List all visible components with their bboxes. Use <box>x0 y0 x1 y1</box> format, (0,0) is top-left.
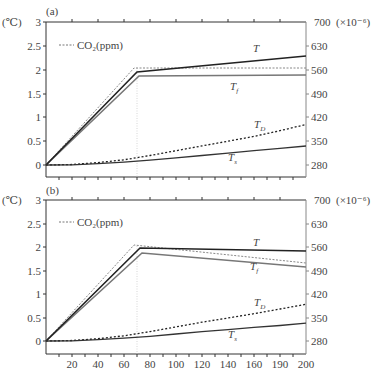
panel-b-right-tick-700: 700 <box>314 194 331 206</box>
svg-text:490: 490 <box>311 88 328 100</box>
svg-text:2.5: 2.5 <box>27 40 41 52</box>
svg-text:630: 630 <box>311 218 328 230</box>
svg-text:420: 420 <box>311 288 328 300</box>
panel-a-left-unit: (℃) <box>2 16 22 29</box>
panel-a-series-T <box>46 56 306 165</box>
svg-text:420: 420 <box>311 111 328 123</box>
panel-a-left-tick-labels: 3 2.5 2 1.5 1 0.5 0 <box>27 16 41 171</box>
panel-b-label-T: T <box>253 236 260 248</box>
panel-a-series-TD <box>46 125 306 166</box>
svg-text:40: 40 <box>93 358 105 370</box>
svg-text:0: 0 <box>36 335 42 347</box>
panel-b-left-tick-labels: 3 2.5 2 1.5 1 0.5 0 <box>27 194 41 347</box>
legend-co2-label: CO₂(ppm) <box>77 216 123 229</box>
svg-text:0: 0 <box>36 159 42 171</box>
panel-b-series-Tf <box>46 253 306 341</box>
panel-a-label: (a) <box>46 5 59 18</box>
svg-text:1: 1 <box>36 288 42 300</box>
svg-text:200: 200 <box>298 358 315 370</box>
svg-text:560: 560 <box>311 64 328 76</box>
svg-text:3: 3 <box>36 194 42 206</box>
svg-text:100: 100 <box>168 358 185 370</box>
svg-text:490: 490 <box>311 265 328 277</box>
panel-b-label-TD: TD <box>254 296 265 311</box>
svg-text:560: 560 <box>311 241 328 253</box>
panel-b-series-TD <box>46 304 306 341</box>
svg-text:280: 280 <box>311 159 328 171</box>
svg-text:60: 60 <box>119 358 131 370</box>
svg-text:190: 190 <box>272 358 289 370</box>
panel-a-right-tick-labels: 630 560 490 420 350 280 <box>311 40 328 171</box>
svg-text:120: 120 <box>194 358 211 370</box>
panel-a-right-tick-700: 700 <box>314 16 331 28</box>
svg-text:1.5: 1.5 <box>27 265 41 277</box>
svg-text:160: 160 <box>246 358 263 370</box>
svg-text:3: 3 <box>36 16 42 28</box>
svg-text:2.5: 2.5 <box>27 218 41 230</box>
panel-a-label-TD: TD <box>254 118 265 133</box>
svg-text:280: 280 <box>311 335 328 347</box>
panel-b-legend: CO₂(ppm) <box>59 216 123 229</box>
panel-a-label-Tf: Tf <box>230 80 239 95</box>
panel-a-series-Tf <box>46 75 306 165</box>
svg-text:350: 350 <box>311 312 328 324</box>
svg-text:1: 1 <box>36 111 42 123</box>
climate-response-figure: (a) (℃) 700 (×10⁻⁶) <box>0 0 378 381</box>
svg-text:0.5: 0.5 <box>27 135 41 147</box>
panel-b-right-unit: (×10⁻⁶) <box>336 194 371 207</box>
panel-b-label: (b) <box>46 184 59 197</box>
panel-b-right-tick-labels: 630 560 490 420 350 280 <box>311 218 328 347</box>
panel-a-series-Ts <box>46 146 306 165</box>
panel-a-legend: CO₂(ppm) <box>59 39 123 52</box>
svg-text:1.5: 1.5 <box>27 88 41 100</box>
svg-text:20: 20 <box>67 358 79 370</box>
svg-text:80: 80 <box>145 358 157 370</box>
svg-text:2: 2 <box>36 241 42 253</box>
panel-b-left-unit: (℃) <box>2 194 22 207</box>
svg-text:2: 2 <box>36 64 42 76</box>
panel-a-label-T: T <box>253 42 260 54</box>
panel-b-label-Ts: Ts <box>228 328 237 343</box>
panel-a-series-co2 <box>46 68 306 165</box>
svg-text:350: 350 <box>311 135 328 147</box>
legend-co2-label: CO₂(ppm) <box>77 39 123 52</box>
panel-a: (a) (℃) 700 (×10⁻⁶) <box>2 5 371 180</box>
svg-text:140: 140 <box>220 358 237 370</box>
panel-b: (b) (℃) 700 (×10⁻⁶) 20 <box>2 184 371 370</box>
panel-b-x-tick-labels: 20 40 60 80 100 120 140 160 190 200 <box>67 358 315 370</box>
svg-text:630: 630 <box>311 40 328 52</box>
panel-a-label-Ts: Ts <box>228 151 237 166</box>
svg-text:0.5: 0.5 <box>27 312 41 324</box>
panel-a-right-unit: (×10⁻⁶) <box>336 16 371 29</box>
panel-b-series-Ts <box>46 323 306 341</box>
